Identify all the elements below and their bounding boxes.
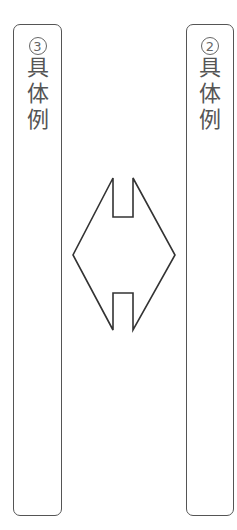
double-arrow-icon	[0, 0, 237, 530]
